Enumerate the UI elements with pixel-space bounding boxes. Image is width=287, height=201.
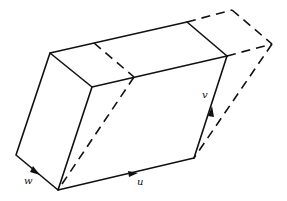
- dashed-top-front: [227, 44, 272, 56]
- u-vector-edge: [58, 158, 194, 190]
- v-vector-edge: [194, 56, 227, 158]
- dashed-top-left: [94, 43, 134, 77]
- dashed-top-back: [187, 10, 232, 22]
- left-face: [16, 53, 92, 190]
- sheared-box: [58, 10, 272, 190]
- parallelepiped-diagram: u v w: [0, 0, 287, 201]
- solid-box: [16, 22, 227, 190]
- label-u: u: [137, 176, 143, 187]
- top-right-edge: [187, 22, 227, 56]
- label-w: w: [24, 175, 33, 186]
- arrowheads: [30, 106, 214, 177]
- top-back-edge: [50, 22, 187, 53]
- top-front-edge: [92, 56, 227, 87]
- dashed-front-left: [58, 77, 134, 190]
- dashed-top-right: [232, 10, 272, 44]
- label-v: v: [202, 89, 208, 100]
